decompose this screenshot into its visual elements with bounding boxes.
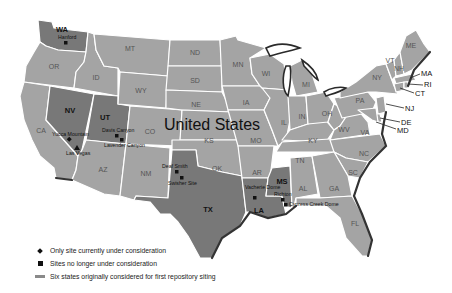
label-ks: KS [204, 137, 214, 144]
label-ky: KY [308, 137, 318, 144]
legend-label: Only site currently under consideration [50, 247, 166, 254]
lake-michigan [283, 66, 291, 96]
label-ar: AR [252, 169, 262, 176]
callout-md: MD [397, 126, 409, 135]
leader-ri [408, 84, 423, 85]
label-sc: SC [348, 169, 358, 176]
label-az: AZ [99, 166, 109, 173]
label-ga: GA [329, 185, 339, 192]
lake-superior [266, 44, 300, 56]
label-ne: NE [191, 101, 201, 108]
label-tx: TX [203, 205, 213, 214]
site-marker-lavender-canyon[interactable] [120, 138, 124, 142]
label-ny: NY [372, 74, 382, 81]
label-wv: WV [338, 126, 350, 133]
state-nj[interactable] [376, 96, 386, 114]
site-marker-vacherie-dome[interactable] [253, 196, 257, 200]
label-tn: TN [295, 157, 304, 164]
label-oh: OH [322, 110, 333, 117]
label-mt: MT [125, 45, 136, 52]
label-nv: NV [65, 106, 75, 115]
label-ok: OK [212, 165, 222, 172]
label-ca: CA [36, 127, 46, 134]
legend-item-former-sites: Sites no longer under consideration [34, 257, 215, 270]
label-me: ME [406, 42, 417, 49]
label-nd: ND [190, 49, 200, 56]
site-label-lavender-canyon: Lavender Canyon [104, 142, 145, 148]
map-legend: Only site currently under consideration … [34, 244, 215, 283]
site-marker-deaf-smith[interactable] [175, 170, 179, 174]
label-fl: FL [351, 220, 359, 227]
callout-ri: RI [424, 80, 432, 89]
label-mo: MO [250, 137, 262, 144]
label-wi: WI [262, 70, 271, 77]
label-al: AL [299, 185, 308, 192]
label-sd: SD [190, 77, 200, 84]
site-marker-hanford[interactable] [64, 41, 68, 45]
legend-label: Six states originally considered for fir… [50, 273, 215, 280]
label-mi: MI [302, 81, 310, 88]
site-label-richton: Richton [274, 191, 292, 197]
label-pa: PA [356, 97, 365, 104]
callout-ma: MA [421, 69, 432, 78]
legend-label: Sites no longer under consideration [50, 260, 157, 267]
label-co: CO [145, 128, 156, 135]
diamond-icon [34, 249, 46, 253]
site-marker-davis-canyon[interactable] [115, 134, 119, 138]
map-title: United States [164, 116, 260, 133]
callout-ct: CT [415, 89, 425, 98]
site-label-hanford: Hanford [58, 34, 77, 40]
legend-item-current-site: Only site currently under consideration [34, 244, 215, 257]
label-ia: IA [243, 99, 250, 106]
label-in: IN [299, 113, 306, 120]
site-label-cypress-creek-dome: Cypress Creek Dome [289, 201, 339, 207]
leader-md [376, 122, 396, 129]
label-nm: NM [141, 170, 152, 177]
label-wy: WY [135, 87, 147, 94]
site-label-davis-canyon: Davis Canyon [102, 127, 134, 133]
leader-nj [386, 104, 404, 108]
site-marker-cypress-creek-dome[interactable] [284, 203, 288, 207]
legend-item-six-states: Six states originally considered for fir… [34, 270, 215, 283]
label-vt: VT [386, 57, 396, 64]
label-nh: NH [394, 65, 404, 72]
label-mn: MN [233, 61, 244, 68]
label-wa: WA [56, 25, 69, 34]
site-label-deaf-smith: Deaf Smith [162, 163, 188, 169]
swatch-icon [34, 275, 46, 278]
label-id: ID [93, 74, 100, 81]
state-ct[interactable] [394, 82, 404, 92]
site-marker-swisher-site[interactable] [180, 176, 184, 180]
label-va: VA [361, 129, 370, 136]
label-ut: UT [100, 113, 110, 122]
site-label-vacherie-dome: Vacherie Dome [245, 184, 280, 190]
label-il: IL [281, 119, 287, 126]
site-label-swisher-site: Swisher Site [168, 180, 197, 186]
site-marker-richton[interactable] [281, 198, 285, 202]
label-la: LA [254, 206, 265, 215]
square-icon [34, 261, 46, 266]
label-nc: NC [359, 150, 369, 157]
callout-nj: NJ [405, 104, 414, 113]
site-label-yucca-mountain: Yucca Mountain [52, 131, 89, 137]
label-or: OR [49, 63, 60, 70]
site-label-las-vegas: Las Vegas [66, 150, 91, 156]
